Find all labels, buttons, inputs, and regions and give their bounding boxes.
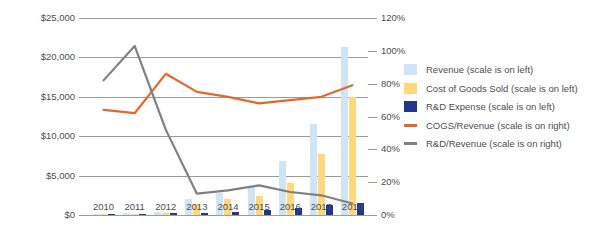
line-series bbox=[104, 74, 353, 113]
y-axis-left-tick-label: $0 bbox=[0, 210, 75, 220]
y-tick-left bbox=[79, 215, 88, 216]
y-axis-left-tick-label: $10,000 bbox=[0, 131, 75, 141]
gridline bbox=[88, 215, 368, 216]
y-axis-right-tick-label: 100% bbox=[381, 46, 405, 56]
legend-item[interactable]: R&D Expense (scale is on left) bbox=[404, 101, 604, 112]
legend-item[interactable]: R&D/Revenue (scale is on right) bbox=[404, 138, 604, 149]
legend-swatch-icon bbox=[404, 83, 417, 94]
y-tick-right bbox=[368, 182, 377, 183]
y-axis-left-tick-label: $20,000 bbox=[0, 52, 75, 62]
legend-label: R&D Expense (scale is on left) bbox=[426, 101, 555, 112]
chart-legend: Revenue (scale is on left)Cost of Goods … bbox=[404, 64, 604, 149]
y-tick-right bbox=[368, 215, 377, 216]
y-axis-left-tick-label: $25,000 bbox=[0, 13, 75, 23]
legend-swatch-icon bbox=[404, 142, 417, 145]
y-tick-right bbox=[368, 51, 377, 52]
y-tick-right bbox=[368, 117, 377, 118]
y-axis-left-tick-label: $5,000 bbox=[0, 171, 75, 181]
y-tick-left bbox=[79, 97, 88, 98]
legend-label: Cost of Goods Sold (scale is on left) bbox=[426, 83, 578, 94]
y-axis-right-tick-label: 0% bbox=[381, 210, 395, 220]
y-tick-right bbox=[368, 149, 377, 150]
legend-label: COGS/Revenue (scale is on right) bbox=[426, 120, 570, 131]
y-axis-right-tick-label: 40% bbox=[381, 144, 400, 154]
line-series bbox=[104, 46, 353, 204]
legend-item[interactable]: Cost of Goods Sold (scale is on left) bbox=[404, 83, 604, 94]
plot-area bbox=[88, 18, 368, 215]
y-tick-right bbox=[368, 84, 377, 85]
y-axis-right-tick-label: 20% bbox=[381, 177, 400, 187]
legend-swatch-icon bbox=[404, 124, 417, 127]
y-tick-right bbox=[368, 18, 377, 19]
line-series-layer bbox=[88, 18, 368, 215]
y-tick-left bbox=[79, 18, 88, 19]
legend-label: Revenue (scale is on left) bbox=[426, 64, 533, 75]
chart-container: $0$5,000$10,000$15,000$20,000$25,000 0%2… bbox=[0, 0, 611, 242]
legend-item[interactable]: Revenue (scale is on left) bbox=[404, 64, 604, 75]
y-tick-left bbox=[79, 136, 88, 137]
y-tick-left bbox=[79, 176, 88, 177]
y-tick-left bbox=[79, 57, 88, 58]
y-axis-right-tick-label: 120% bbox=[381, 13, 405, 23]
y-axis-right-tick-label: 80% bbox=[381, 79, 400, 89]
legend-label: R&D/Revenue (scale is on right) bbox=[426, 138, 562, 149]
legend-swatch-icon bbox=[404, 101, 417, 112]
legend-swatch-icon bbox=[404, 64, 417, 75]
y-axis-left-tick-label: $15,000 bbox=[0, 92, 75, 102]
legend-item[interactable]: COGS/Revenue (scale is on right) bbox=[404, 120, 604, 131]
x-axis-tick-label: 2018 bbox=[332, 201, 372, 212]
y-axis-right-tick-label: 60% bbox=[381, 112, 400, 122]
